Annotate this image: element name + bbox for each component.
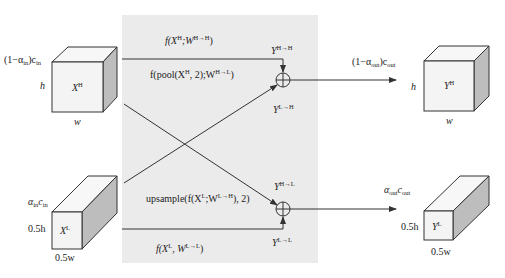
label-y-hh: YH→H bbox=[271, 45, 292, 56]
sum-node-high bbox=[276, 73, 290, 87]
label-y-hl: YH→L bbox=[274, 181, 295, 192]
input-high-name: XH bbox=[72, 82, 83, 93]
input-low-channels-label: αincin bbox=[28, 197, 48, 209]
input-low-height-label: 0.5h bbox=[28, 224, 46, 234]
op-label-hh: f(XH;WH→H) bbox=[165, 35, 213, 46]
input-low-name: XL bbox=[60, 225, 70, 236]
op-label-hl: f(pool(XH, 2);WH→L) bbox=[150, 69, 234, 80]
input-high-channels-label: (1−αin)cin bbox=[4, 55, 41, 67]
output-high-channels-label: (1−αout)cout bbox=[352, 57, 396, 69]
octave-convolution-diagram bbox=[0, 0, 505, 278]
op-label-lh: upsample(f(XL;WL→H), 2) bbox=[146, 193, 250, 204]
output-high-width-label: w bbox=[446, 116, 453, 126]
output-high-name: YH bbox=[444, 80, 454, 91]
op-label-ll: f(XL, WL→L) bbox=[156, 243, 203, 254]
label-y-ll: YL→L bbox=[272, 237, 292, 248]
label-y-lh: YL→H bbox=[273, 104, 294, 115]
sum-node-low bbox=[276, 202, 290, 216]
input-high-height-label: h bbox=[40, 81, 45, 91]
output-high-height-label: h bbox=[411, 82, 416, 92]
output-low-channels-label: αoutcout bbox=[384, 185, 410, 197]
output-low-height-label: 0.5h bbox=[401, 222, 419, 232]
input-high-cube bbox=[52, 47, 117, 112]
output-low-name: YL bbox=[432, 221, 442, 232]
output-low-width-label: 0.5w bbox=[431, 247, 451, 257]
output-high-cube bbox=[424, 46, 489, 111]
input-high-width-label: w bbox=[74, 117, 81, 127]
input-low-cuboid bbox=[52, 176, 117, 249]
input-low-width-label: 0.5w bbox=[55, 253, 75, 263]
